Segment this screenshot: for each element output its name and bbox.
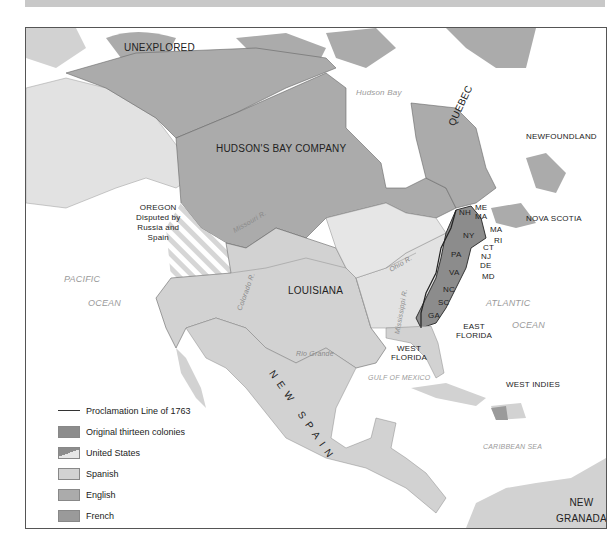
oregon-line-4: Spain xyxy=(136,233,180,243)
colony-md: MD xyxy=(482,272,495,281)
oregon-line-3: Russia and xyxy=(136,223,180,233)
colony-nh: NH xyxy=(459,208,471,217)
east-florida-line-2: FLORIDA xyxy=(456,331,492,340)
colony-ny: NY xyxy=(463,231,475,240)
colony-me: ME xyxy=(475,203,487,212)
label-louisiana: LOUISIANA xyxy=(288,285,343,296)
colony-nj: NJ xyxy=(481,252,491,261)
label-atlantic-1: ATLANTIC xyxy=(486,298,530,308)
new-granada-line-2: GRANADA xyxy=(556,511,607,527)
new-granada-line-1: NEW xyxy=(556,495,607,511)
label-caribbean-sea: CARIBBEAN SEA xyxy=(483,443,542,450)
legend-item-french: French xyxy=(58,505,191,526)
colony-ga: GA xyxy=(428,311,440,320)
label-rio-grande: Rio Grande xyxy=(296,350,334,357)
label-nova-scotia: NOVA SCOTIA xyxy=(526,214,582,223)
colony-pa: PA xyxy=(451,250,461,259)
legend-item-spanish: Spanish xyxy=(58,463,191,484)
legend-item-original-colonies: Original thirteen colonies xyxy=(58,421,191,442)
label-unexplored: UNEXPLORED xyxy=(124,42,195,53)
colony-nc: NC xyxy=(443,285,455,294)
legend-item-united-states: United States xyxy=(58,442,191,463)
west-florida-line-1: WEST xyxy=(391,344,427,353)
split-swatch-icon xyxy=(58,447,80,459)
colony-ma: MA xyxy=(490,225,502,234)
legend-label: English xyxy=(86,490,116,500)
colony-de: DE xyxy=(480,261,492,270)
label-pacific-2: OCEAN xyxy=(88,298,121,308)
legend-item-english: English xyxy=(58,484,191,505)
label-west-florida: WEST FLORIDA xyxy=(391,344,427,362)
colony-ri: RI xyxy=(494,236,502,245)
colony-va: VA xyxy=(449,268,459,277)
oregon-line-2: Disputed by xyxy=(136,213,180,223)
label-gulf-of-mexico: GULF OF MEXICO xyxy=(368,374,430,381)
label-new-granada: NEW GRANADA xyxy=(556,495,607,527)
swatch-icon xyxy=(58,489,80,501)
map-frame: UNEXPLORED HUDSON'S BAY COMPANY Hudson B… xyxy=(25,27,607,529)
legend-label: Proclamation Line of 1763 xyxy=(86,406,191,416)
swatch-icon xyxy=(58,468,80,480)
label-west-indies: WEST INDIES xyxy=(506,380,560,389)
label-pacific-1: PACIFIC xyxy=(64,274,100,284)
label-newfoundland: NEWFOUNDLAND xyxy=(526,132,597,141)
header-bar xyxy=(25,0,605,7)
legend-label: Original thirteen colonies xyxy=(86,427,185,437)
east-florida-line-1: EAST xyxy=(456,322,492,331)
label-atlantic-2: OCEAN xyxy=(512,320,545,330)
label-hudsons-bay-company: HUDSON'S BAY COMPANY xyxy=(216,143,346,154)
legend-label: United States xyxy=(86,448,140,458)
label-hudson-bay: Hudson Bay xyxy=(356,88,402,97)
west-florida-line-2: FLORIDA xyxy=(391,353,427,362)
oregon-line-1: OREGON xyxy=(136,203,180,213)
label-east-florida: EAST FLORIDA xyxy=(456,322,492,340)
line-symbol-icon xyxy=(58,410,80,411)
legend-item-proclamation-line: Proclamation Line of 1763 xyxy=(58,400,191,421)
legend-item-russian: Russian xyxy=(58,526,191,529)
colony-ct: CT xyxy=(483,243,494,252)
label-oregon: OREGON Disputed by Russia and Spain xyxy=(136,203,180,243)
legend-label: Spanish xyxy=(86,469,119,479)
colony-ma-north: MA xyxy=(475,212,487,221)
legend-label: French xyxy=(86,511,114,521)
swatch-icon xyxy=(58,426,80,438)
map-legend: Proclamation Line of 1763 Original thirt… xyxy=(58,400,191,529)
swatch-icon xyxy=(58,510,80,522)
colony-sc: SC xyxy=(438,298,450,307)
